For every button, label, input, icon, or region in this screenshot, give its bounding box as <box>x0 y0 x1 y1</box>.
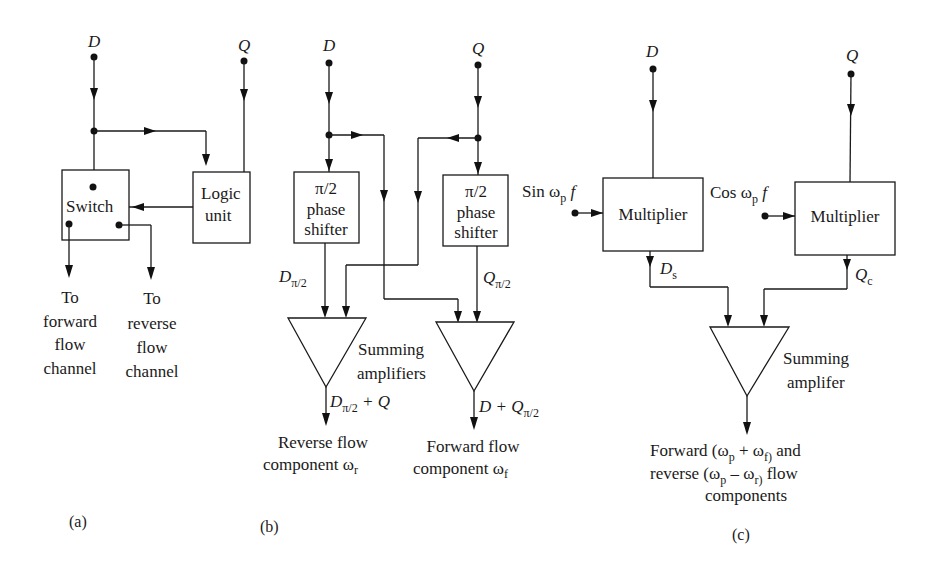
svg-text:Summing: Summing <box>358 340 425 359</box>
svg-text:flow: flow <box>136 338 168 357</box>
svg-text:To: To <box>61 288 79 307</box>
forward-component-label: component ωf <box>413 459 508 481</box>
svg-text:flow: flow <box>54 335 86 354</box>
svg-text:Forward (ωp + ωf) and: Forward (ωp + ωf) and <box>650 441 801 464</box>
input-q-label: Q <box>846 46 858 65</box>
summing-amplifier-forward <box>436 322 514 391</box>
reverse-channel-label: To reverse flow channel <box>126 289 179 381</box>
panel-c: D Q Multiplier Multiplier Sin ωp f Cos ω… <box>522 42 895 544</box>
caption-b: (b) <box>260 518 279 536</box>
svg-text:amplifer: amplifer <box>787 373 845 392</box>
svg-text:channel: channel <box>126 362 179 381</box>
input-q-label: Q <box>472 39 484 58</box>
flow-direction-diagram: D Q Switch Logic unit <box>0 0 936 573</box>
switch-label: Switch <box>66 197 114 216</box>
svg-text:reverse (ωp – ωr) flow: reverse (ωp – ωr) flow <box>650 464 799 487</box>
svg-text:amplifiers: amplifiers <box>357 364 426 383</box>
input-d-label: D <box>87 32 101 51</box>
svg-text:Multiplier: Multiplier <box>811 207 880 226</box>
forward-channel-label: To forward flow channel <box>43 288 97 378</box>
svg-text:phase: phase <box>457 203 496 222</box>
sin-reference-label: Sin ωp f <box>522 182 577 205</box>
input-d-label: D <box>322 36 336 55</box>
svg-text:phase: phase <box>307 200 346 219</box>
caption-a: (a) <box>69 513 87 531</box>
caption-c: (c) <box>732 526 750 544</box>
svg-text:Summing: Summing <box>783 349 850 368</box>
svg-text:π/2: π/2 <box>465 182 487 201</box>
logic-label-1: Logic <box>201 184 241 203</box>
svg-text:Forward flow: Forward flow <box>426 437 520 456</box>
svg-text:forward: forward <box>43 312 97 331</box>
output-label: Forward (ωp + ωf) and reverse (ωp – ωr) … <box>650 441 801 505</box>
svg-text:π/2: π/2 <box>315 179 337 198</box>
input-q-label: Q <box>238 36 250 55</box>
q-pi2-label: Qπ/2 <box>483 268 511 291</box>
reverse-output-label: Dπ/2 + Q <box>329 392 390 415</box>
input-d-label: D <box>645 42 659 61</box>
svg-text:components: components <box>705 486 787 505</box>
d-pi2-label: Dπ/2 <box>278 267 307 290</box>
svg-text:reverse: reverse <box>127 314 176 333</box>
forward-output-label: D + Qπ/2 <box>478 397 539 420</box>
reverse-component-label: component ωr <box>263 455 358 477</box>
ds-label: Ds <box>659 259 677 282</box>
qc-label: Qc <box>855 265 873 288</box>
panel-b: D Q π/2 phase shifter π/2 <box>260 36 539 536</box>
svg-text:channel: channel <box>44 359 97 378</box>
panel-a: D Q Switch Logic unit <box>43 32 250 531</box>
cos-reference-label: Cos ωp f <box>710 183 769 206</box>
svg-text:Reverse flow: Reverse flow <box>278 433 369 452</box>
svg-text:shifter: shifter <box>304 220 348 239</box>
svg-text:shifter: shifter <box>454 223 498 242</box>
logic-label-2: unit <box>205 206 232 225</box>
summing-amplifier <box>710 327 789 396</box>
svg-text:Multiplier: Multiplier <box>619 205 688 224</box>
svg-text:To: To <box>143 289 161 308</box>
summing-amplifier-reverse <box>288 318 366 387</box>
